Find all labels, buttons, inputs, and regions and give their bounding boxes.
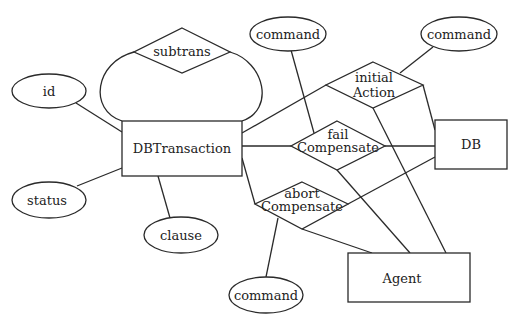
er-diagram: DBTransaction DB Agent subtrans initial … [0,0,514,322]
entity-dbtransaction-label: DBTransaction [133,141,232,156]
relationship-abort-compensate[interactable]: abort Compensate [255,182,348,229]
relationship-subtrans[interactable]: subtrans [134,28,230,73]
attribute-command-initial[interactable]: command [421,17,497,51]
relationship-initial-action[interactable]: initial Action [326,62,423,108]
attribute-command-abort-label: command [234,288,298,303]
entity-dbtransaction[interactable]: DBTransaction [122,121,242,176]
relationship-fail-compensate-line2: Compensate [297,140,379,155]
relationship-subtrans-label: subtrans [153,44,211,59]
entity-db[interactable]: DB [435,120,507,169]
entity-agent-label: Agent [382,271,423,286]
relationship-initial-action-line2: Action [352,85,396,100]
entity-db-label: DB [461,137,481,152]
edge-command-initial [400,47,433,73]
edge-fail-agent [337,170,410,253]
edge-dbt-abort [242,158,255,204]
attribute-clause-label: clause [160,228,202,243]
relationship-abort-compensate-line2: Compensate [261,199,343,214]
edge-abort-db [348,157,435,204]
attribute-clause[interactable]: clause [144,217,218,253]
edge-command-fail [291,50,314,133]
edge-abort-agent [302,229,372,253]
attribute-status-label: status [27,193,67,208]
subtrans-loop-left [100,52,134,121]
entity-agent[interactable]: Agent [348,253,470,302]
attribute-id-label: id [43,84,55,99]
attribute-id[interactable]: id [12,74,86,108]
edge-status [77,168,122,186]
attribute-command-fail[interactable]: command [250,17,326,51]
attribute-command-fail-label: command [256,27,320,42]
edge-clause [158,176,170,218]
relationship-fail-compensate[interactable]: fail Compensate [291,121,385,170]
edge-initial-db [423,85,435,130]
relationship-initial-action-line1: initial [355,70,393,85]
attribute-command-abort[interactable]: command [229,277,303,313]
attribute-status[interactable]: status [12,182,86,218]
edge-command-abort [266,218,278,277]
attribute-command-initial-label: command [427,27,491,42]
edge-dbt-initial [242,85,326,133]
subtrans-loop-right [230,52,262,121]
